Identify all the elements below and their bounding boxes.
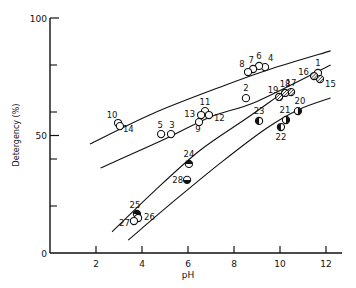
point-label: 9 (195, 124, 200, 134)
point-label: 11 (200, 97, 211, 107)
point-label: 22 (276, 132, 287, 142)
y-tick-label: 0 (41, 249, 47, 259)
data-point-20: 20 (294, 96, 305, 115)
point-label: 8 (239, 59, 244, 69)
data-point-27: 27 (119, 217, 137, 228)
detergency-vs-ph-chart: 05010024681012 1234567891011121314151617… (0, 0, 356, 288)
point-label: 6 (256, 51, 261, 61)
data-point-9: 9 (195, 119, 202, 135)
point-label: 7 (248, 55, 253, 65)
chart-canvas: 05010024681012 1234567891011121314151617… (0, 0, 356, 288)
x-tick-label: 10 (274, 259, 286, 269)
data-point-2: 2 (242, 83, 249, 102)
point-label: 28 (172, 175, 183, 185)
point-label: 19 (268, 85, 279, 95)
x-tick-label: 12 (320, 259, 331, 269)
point-label: 26 (144, 212, 155, 222)
data-point-22: 22 (276, 123, 287, 142)
data-point-16: 16 (298, 67, 317, 80)
y-axis-label: Detergency (%) (12, 104, 21, 167)
point-label: 14 (123, 124, 134, 134)
data-point-14: 14 (116, 123, 133, 135)
data-point-15: 15 (316, 76, 335, 90)
point-label: 21 (280, 105, 291, 115)
point-label: 3 (169, 120, 174, 130)
data-point-21: 21 (280, 105, 291, 124)
point-label: 1 (315, 58, 320, 68)
x-axis-label: pH (182, 270, 194, 280)
y-tick-label: 50 (36, 131, 48, 141)
y-tick-label: 100 (30, 14, 47, 24)
data-point-23: 23 (254, 106, 265, 125)
point-label: 4 (268, 53, 273, 63)
point-label: 20 (295, 96, 306, 106)
point-label: 24 (184, 149, 195, 159)
axes: 05010024681012 (30, 14, 342, 270)
data-point-24: 24 (184, 149, 195, 168)
point-label: 15 (325, 79, 336, 89)
data-points: 1234567891011121314151617181920212223242… (107, 51, 336, 228)
x-tick-label: 6 (185, 259, 191, 269)
point-label: 25 (130, 200, 141, 210)
x-tick-label: 2 (93, 259, 99, 269)
data-point-12: 12 (205, 111, 224, 123)
point-label: 23 (254, 106, 265, 116)
point-label: 12 (214, 113, 225, 123)
data-point-3: 3 (167, 120, 174, 138)
point-label: 10 (107, 110, 118, 120)
point-label: 16 (298, 67, 309, 77)
data-point-5: 5 (157, 120, 164, 138)
data-point-28: 28 (172, 175, 190, 185)
x-tick-label: 4 (139, 259, 145, 269)
point-label: 2 (243, 83, 248, 93)
point-label: 27 (119, 218, 130, 228)
data-point-4: 4 (261, 53, 273, 71)
point-label: 5 (157, 120, 162, 130)
x-tick-label: 8 (231, 259, 237, 269)
point-label: 18 (280, 79, 291, 89)
point-label: 13 (184, 109, 195, 119)
